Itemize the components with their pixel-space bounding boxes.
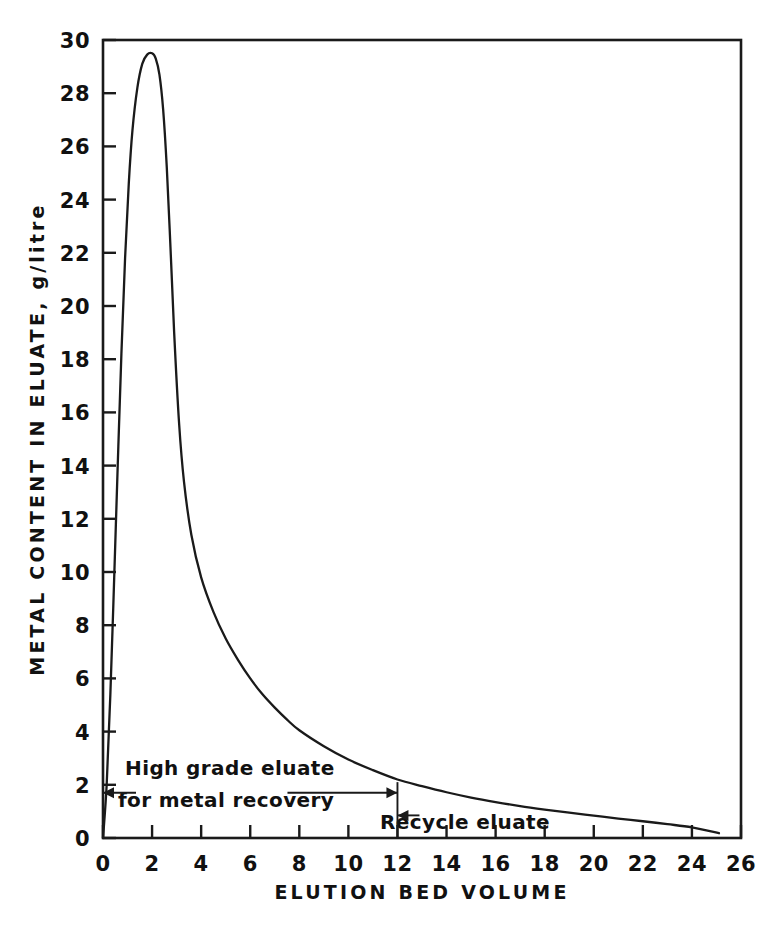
chart-canvas: 024681012141618202224262830 024681012141… [0,0,777,941]
y-axis-title: METAL CONTENT IN ELUATE, g/litre [26,202,48,675]
y-tick-label: 18 [60,348,90,372]
x-tick-label: 24 [677,852,707,876]
x-tick-label: 10 [333,852,363,876]
y-tick-label: 6 [75,667,90,691]
y-tick-label: 4 [75,721,90,745]
y-tick-label: 10 [60,561,90,585]
x-tick-label: 6 [243,852,258,876]
y-tick-label: 8 [75,614,90,638]
x-axis-title: ELUTION BED VOLUME [274,881,569,903]
y-tick-label: 20 [60,295,90,319]
x-tick-label: 18 [530,852,560,876]
y-tick-label: 14 [60,455,90,479]
x-tick-label: 26 [726,852,756,876]
y-tick-label: 12 [60,508,90,532]
y-tick-label: 0 [75,827,90,851]
x-tick-label: 16 [480,852,510,876]
annotation-high-grade-line2: for metal recovery [118,788,334,812]
annotation-recycle: Recycle eluate [380,810,550,834]
x-tick-label: 8 [292,852,307,876]
y-tick-label: 2 [75,774,90,798]
x-tick-label: 20 [579,852,609,876]
x-tick-label: 14 [431,852,461,876]
annotation-high-grade-line1: High grade eluate [125,756,335,780]
y-tick-label: 24 [60,189,90,213]
y-tick-label: 30 [60,29,90,53]
y-tick-label: 22 [60,242,90,266]
y-tick-label: 16 [60,401,90,425]
elution-curve-figure: 024681012141618202224262830 024681012141… [0,0,777,941]
x-tick-label: 2 [145,852,160,876]
y-tick-label: 28 [60,82,90,106]
y-tick-label: 26 [60,135,90,159]
x-tick-label: 22 [628,852,658,876]
x-tick-label: 12 [382,852,412,876]
x-tick-label: 0 [95,852,110,876]
x-tick-label: 4 [194,852,209,876]
